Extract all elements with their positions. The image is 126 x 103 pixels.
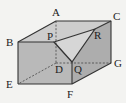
label-a: A [52, 7, 60, 18]
label-r: R [94, 30, 101, 41]
label-b: B [6, 37, 13, 48]
label-q: Q [74, 64, 82, 75]
label-d: D [55, 64, 63, 75]
label-p: P [47, 31, 53, 42]
cuboid-diagram: A B C D E F G P Q R [0, 0, 126, 103]
label-c: C [113, 11, 120, 22]
label-f: F [67, 89, 73, 100]
label-e: E [6, 79, 13, 90]
cuboid-figure [0, 0, 126, 103]
label-g: G [114, 58, 122, 69]
